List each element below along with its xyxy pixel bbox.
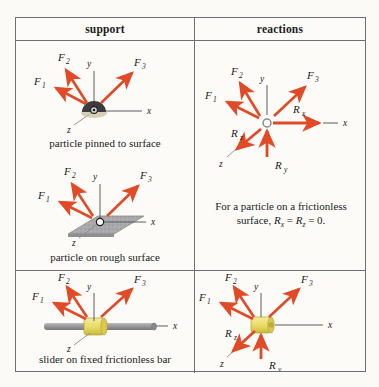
axis-label-x: x xyxy=(327,320,333,330)
note-eq-2: = 0. xyxy=(305,214,325,226)
force-label-F3: F xyxy=(306,69,314,81)
force-sub-F3: 3 xyxy=(141,279,146,288)
reaction-label-Ry: R xyxy=(274,159,282,171)
particle-node xyxy=(263,119,271,127)
header-support: support xyxy=(16,18,195,40)
axis-label-y: y xyxy=(92,172,98,182)
force-label-F1: F xyxy=(33,75,41,87)
force-label-F1: F xyxy=(37,189,45,201)
force-label-F1: F xyxy=(204,89,212,101)
support-reactions-table: support reactions xyxy=(15,17,366,372)
force-sub-F3: 3 xyxy=(314,75,319,84)
force-label-F3: F xyxy=(133,56,141,68)
table-band-top: y x z F 1 F xyxy=(16,41,365,271)
force-arrow-F3 xyxy=(101,73,132,103)
force-label-F2: F xyxy=(57,51,65,63)
force-sub-F2: 2 xyxy=(66,57,70,66)
force-label-F3: F xyxy=(139,169,147,181)
force-arrow-F1 xyxy=(54,303,86,319)
axis-label-z: z xyxy=(219,359,224,369)
rough-surface-edge xyxy=(68,234,114,237)
axis-label-z: z xyxy=(71,238,76,248)
header-reactions: reactions xyxy=(195,18,365,40)
force-arrow-F1 xyxy=(60,202,92,218)
note-line-1: For a particle on a frictionless xyxy=(215,200,347,212)
axis-label-x: x xyxy=(146,106,152,116)
diagram-reactions-particle: y x z F 1 F 2 F 3 xyxy=(195,45,367,195)
force-arrow-F2 xyxy=(67,287,87,317)
caption-slider: slider on fixed frictionless bar xyxy=(16,353,194,365)
note-R-x: R xyxy=(274,214,281,226)
figure-page: support reactions xyxy=(0,0,379,387)
particle-center-dot xyxy=(93,109,96,112)
diagram-reactions-slider: y x z F 1 F 2 F 3 R y xyxy=(195,271,367,371)
force-sub-F3: 3 xyxy=(141,62,146,71)
force-arrow-F3 xyxy=(107,186,138,216)
force-sub-F2: 2 xyxy=(233,277,237,286)
force-sub-F1: 1 xyxy=(213,95,217,104)
force-arrow-F3 xyxy=(274,87,305,116)
axis-label-x: x xyxy=(342,118,348,128)
force-arrow-F3 xyxy=(269,289,299,317)
axis-z-line xyxy=(74,333,90,345)
force-label-F3: F xyxy=(133,273,141,285)
reaction-sub-Rz: z xyxy=(239,133,243,142)
axis-label-z: z xyxy=(66,125,71,135)
force-sub-F1: 1 xyxy=(40,296,44,305)
diagram-particle-pinned-to-surface: y x z F 1 F xyxy=(16,41,194,136)
force-label-F2: F xyxy=(224,271,232,283)
reactions-cell-bottom: y x z F 1 F 2 F 3 R y xyxy=(195,271,367,373)
force-sub-F2: 2 xyxy=(66,277,70,286)
force-arrow-F3 xyxy=(101,289,132,317)
force-sub-F1: 1 xyxy=(207,297,211,306)
force-label-F1: F xyxy=(31,290,39,302)
force-arrow-F2 xyxy=(72,184,93,216)
force-label-F2: F xyxy=(230,65,238,77)
reaction-label-Rx: R xyxy=(292,103,300,115)
cell-slider-support: y x z F 1 F 2 F 3 slider on fixed fricti… xyxy=(16,271,195,373)
force-sub-F1: 1 xyxy=(42,81,46,90)
support-column-top: y x z F 1 F xyxy=(16,41,195,270)
force-sub-F3: 3 xyxy=(147,175,152,184)
axis-label-y: y xyxy=(86,282,92,292)
rough-surface-plane xyxy=(68,216,144,234)
collar-face xyxy=(101,318,107,335)
diagram-slider-on-bar: y x z F 1 F 2 F 3 xyxy=(16,271,194,353)
caption-particle-pinned: particle pinned to surface xyxy=(16,137,194,149)
axis-label-y: y xyxy=(259,74,265,84)
note-line-2-prefix: surface, xyxy=(237,214,274,226)
force-arrow-F2 xyxy=(234,287,254,317)
cell-particle-rough: y x z F 1 F 2 F 3 xyxy=(16,156,194,270)
reaction-label-Ry: R xyxy=(268,359,276,371)
table-header-row: support reactions xyxy=(16,18,365,41)
force-label-F1: F xyxy=(198,291,206,303)
reaction-sub-Ry: y xyxy=(283,165,288,174)
reaction-label-Rz: R xyxy=(230,127,238,139)
force-sub-F1: 1 xyxy=(46,195,50,204)
axis-label-y: y xyxy=(253,282,259,292)
force-label-F3: F xyxy=(300,273,308,285)
reaction-sub-Rx: x xyxy=(301,109,306,118)
reactions-cell-top: y x z F 1 F 2 F 3 xyxy=(195,41,367,270)
force-arrow-F1 xyxy=(221,303,253,319)
cell-particle-pinned: y x z F 1 F xyxy=(16,41,194,156)
collar-bore xyxy=(268,322,273,327)
reaction-sub-Rz: z xyxy=(233,333,237,342)
table-band-bottom: y x z F 1 F 2 F 3 slider on fixed fricti… xyxy=(16,271,365,373)
reaction-label-Rz: R xyxy=(224,327,232,339)
force-label-F2: F xyxy=(63,165,71,177)
note-eq-1: = xyxy=(284,214,296,226)
caption-particle-rough: particle on rough surface xyxy=(16,251,194,263)
axis-label-x: x xyxy=(150,217,156,227)
force-label-F2: F xyxy=(57,271,65,283)
axis-label-z: z xyxy=(218,159,223,169)
axis-label-x: x xyxy=(172,321,178,331)
force-sub-F3: 3 xyxy=(308,279,313,288)
diagram-particle-on-rough-surface: y x z F 1 F 2 F 3 xyxy=(16,156,194,251)
force-sub-F2: 2 xyxy=(72,171,76,180)
particle-node xyxy=(96,218,103,225)
axis-label-z: z xyxy=(66,344,71,353)
force-sub-F2: 2 xyxy=(239,71,243,80)
frictionless-note: For a particle on a frictionless surface… xyxy=(195,199,367,232)
axis-label-y: y xyxy=(86,59,92,69)
